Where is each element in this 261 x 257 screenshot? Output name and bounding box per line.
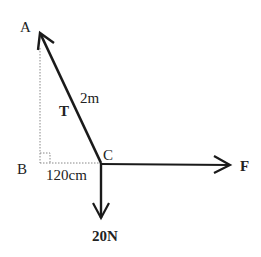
- point-label-A: A: [20, 20, 31, 35]
- force-F-label: F: [240, 159, 249, 174]
- weight-label: 20N: [92, 229, 118, 244]
- point-label-C: C: [103, 148, 113, 163]
- length-AC-label: 2m: [80, 91, 99, 106]
- tension-label: T: [59, 104, 69, 119]
- force-diagram: [0, 0, 261, 257]
- right-angle-marker: [40, 153, 50, 163]
- point-label-B: B: [17, 162, 27, 177]
- length-BC-label: 120cm: [46, 168, 87, 183]
- force-F-arrow-line: [101, 164, 230, 165]
